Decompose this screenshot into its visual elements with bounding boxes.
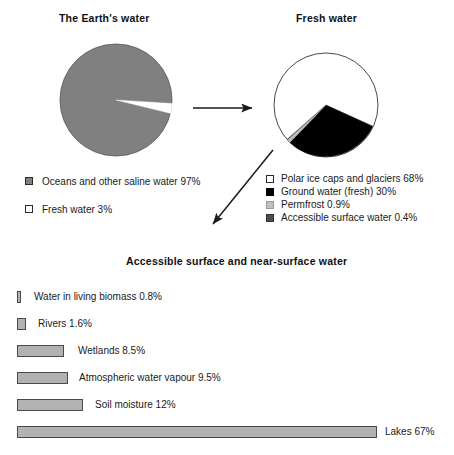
legend-item-ground-water-fresh: Ground water (fresh) 30% xyxy=(266,187,423,197)
legend-swatch-fresh-water-icon xyxy=(25,205,33,213)
bar-lakes xyxy=(17,426,377,438)
legend-swatch-polar-ice-caps-icon xyxy=(266,175,274,183)
bar-row: Rivers 1.6% xyxy=(0,310,454,337)
bar-label-wetlands: Wetlands 8.5% xyxy=(78,345,145,356)
legend-earths-water: Oceans and other saline water 97% Fresh … xyxy=(25,177,200,233)
bar-row: Soil moisture 12% xyxy=(0,391,454,418)
legend-label-fresh-water: Fresh water 3% xyxy=(42,205,112,215)
legend-item-fresh-water: Fresh water 3% xyxy=(25,205,200,215)
legend-item-permfrost: Permfrost 0.9% xyxy=(266,200,423,210)
page-title-accessible-surface-water: Accessible surface and near-surface wate… xyxy=(126,255,347,267)
bar-row: Lakes 67% xyxy=(0,418,454,445)
pie-chart-earths-water xyxy=(56,42,178,158)
legend-label-polar-ice-caps: Polar ice caps and glaciers 68% xyxy=(281,174,423,184)
bar-soil-moisture xyxy=(17,399,83,411)
legend-label-ground-water: Ground water (fresh) 30% xyxy=(281,187,396,197)
bar-label-rivers: Rivers 1.6% xyxy=(38,318,92,329)
bar-label-soil-moisture: Soil moisture 12% xyxy=(95,399,176,410)
bar-row: Wetlands 8.5% xyxy=(0,337,454,364)
pie-chart-fresh-water xyxy=(272,51,384,163)
bar-water-in-living-biomass xyxy=(17,291,21,303)
page-title-earths-water: The Earth's water xyxy=(59,12,150,24)
bar-row: Atmospheric water vapour 9.5% xyxy=(0,364,454,391)
bar-wetlands xyxy=(17,345,64,357)
bar-atmospheric-water-vapour xyxy=(17,372,68,384)
bar-chart-accessible-surface-water: Water in living biomass 0.8% Rivers 1.6%… xyxy=(0,283,454,445)
legend-fresh-water: Polar ice caps and glaciers 68% Ground w… xyxy=(266,174,423,226)
bar-label-lakes: Lakes 67% xyxy=(385,426,434,437)
bar-rivers xyxy=(17,318,26,330)
legend-item-accessible-surface-water: Accessible surface water 0.4% xyxy=(266,213,423,223)
legend-item-oceans-and-other-saline-water: Oceans and other saline water 97% xyxy=(25,177,200,187)
bar-row: Water in living biomass 0.8% xyxy=(0,283,454,310)
arrow-fresh-water-to-accessible-surface xyxy=(213,150,273,224)
legend-item-polar-ice-caps-and-glaciers: Polar ice caps and glaciers 68% xyxy=(266,174,423,184)
page-title-fresh-water: Fresh water xyxy=(296,12,357,24)
legend-swatch-oceans-icon xyxy=(25,177,33,185)
legend-swatch-accessible-surface-water-icon xyxy=(266,214,274,222)
legend-label-permfrost: Permfrost 0.9% xyxy=(281,200,350,210)
legend-swatch-permfrost-icon xyxy=(266,201,274,209)
bar-label-water-in-living-biomass: Water in living biomass 0.8% xyxy=(34,291,162,302)
legend-label-accessible-surface-water: Accessible surface water 0.4% xyxy=(281,213,417,223)
bar-label-atmospheric-water-vapour: Atmospheric water vapour 9.5% xyxy=(79,372,221,383)
legend-label-oceans: Oceans and other saline water 97% xyxy=(42,177,200,187)
legend-swatch-ground-water-icon xyxy=(266,188,274,196)
